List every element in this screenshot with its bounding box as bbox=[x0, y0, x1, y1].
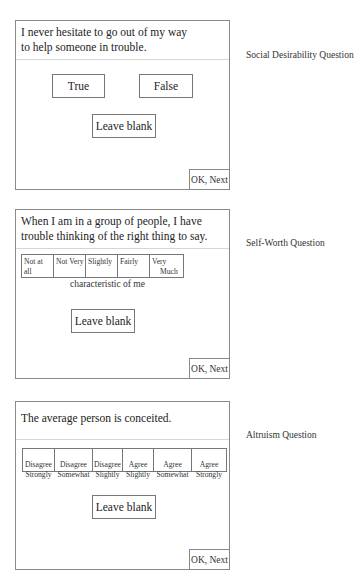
ok-next-button[interactable]: OK, Next bbox=[189, 549, 230, 570]
altruism-panel: The average person is conceited. Disagre… bbox=[15, 401, 230, 570]
question-line-2: to help someone in trouble. bbox=[21, 40, 187, 55]
leave-blank-button[interactable]: Leave blank bbox=[92, 114, 156, 138]
characteristic-scale: Not at all Not Very Slightly Fairly Very… bbox=[21, 254, 184, 278]
scale-option-agree-slightly[interactable]: AgreeSlightly bbox=[123, 449, 154, 471]
question-line-1: The average person is conceited. bbox=[21, 411, 171, 426]
question-text: I never hesitate to go out of my way to … bbox=[21, 25, 187, 55]
scale-option-fairly[interactable]: Fairly bbox=[118, 255, 150, 277]
true-button[interactable]: True bbox=[52, 74, 105, 98]
scale-option-disagree-slightly[interactable]: DisagreeSlightly bbox=[93, 449, 123, 471]
question-text: The average person is conceited. bbox=[21, 411, 171, 426]
divider bbox=[16, 439, 229, 440]
agreement-scale: DisagreeStrongly DisagreeSomewhat Disagr… bbox=[22, 448, 227, 472]
scale-option-very-much[interactable]: Very Much bbox=[150, 255, 183, 277]
scale-option-disagree-somewhat[interactable]: DisagreeSomewhat bbox=[55, 449, 93, 471]
self-worth-panel: When I am in a group of people, I have t… bbox=[15, 209, 230, 379]
scale-option-agree-strongly[interactable]: AgreeStrongly bbox=[192, 449, 226, 471]
social-desirability-label: Social Desirability Question bbox=[246, 50, 354, 60]
scale-option-not-very[interactable]: Not Very bbox=[54, 255, 86, 277]
scale-option-agree-somewhat[interactable]: AgreeSomewhat bbox=[154, 449, 192, 471]
altruism-label: Altruism Question bbox=[246, 430, 316, 440]
scale-option-not-at-all[interactable]: Not at all bbox=[22, 255, 54, 277]
very-much-line-1: Very bbox=[152, 257, 166, 266]
leave-blank-button[interactable]: Leave blank bbox=[92, 495, 156, 519]
social-desirability-panel: I never hesitate to go out of my way to … bbox=[15, 20, 230, 190]
scale-caption: characteristic of me bbox=[70, 279, 145, 289]
divider bbox=[16, 59, 229, 60]
leave-blank-button[interactable]: Leave blank bbox=[71, 309, 135, 333]
scale-option-disagree-strongly[interactable]: DisagreeStrongly bbox=[23, 449, 55, 471]
divider bbox=[16, 248, 229, 249]
question-line-1: I never hesitate to go out of my way bbox=[21, 25, 187, 40]
ok-next-button[interactable]: OK, Next bbox=[189, 169, 230, 190]
question-line-2: trouble thinking of the right thing to s… bbox=[21, 229, 207, 244]
false-button[interactable]: False bbox=[139, 74, 193, 98]
question-text: When I am in a group of people, I have t… bbox=[21, 214, 207, 244]
question-line-1: When I am in a group of people, I have bbox=[21, 214, 207, 229]
scale-option-slightly[interactable]: Slightly bbox=[86, 255, 118, 277]
self-worth-label: Self-Worth Question bbox=[246, 238, 325, 248]
very-much-line-2: Much bbox=[152, 267, 182, 277]
ok-next-button[interactable]: OK, Next bbox=[189, 358, 230, 379]
